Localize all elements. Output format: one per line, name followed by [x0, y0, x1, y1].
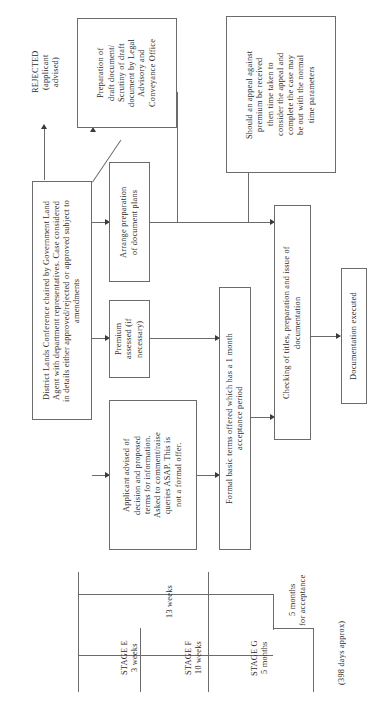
node-formal-terms-label: Formal basic terms offered which has a 1… [220, 288, 250, 549]
node-applicant-advised[interactable]: Applicant advised of decision and propos… [109, 400, 197, 550]
timeline-divider-fg [208, 572, 209, 692]
timeline-stage-g-label: STAGE G 5 months [234, 624, 286, 692]
node-rejected[interactable]: REJECTED (applicant advised) [24, 22, 68, 122]
timeline-tick-end-lower [273, 628, 313, 629]
timeline-total-label: (398 days approx) [330, 610, 354, 696]
connector-draft-doc-down [177, 92, 178, 222]
connector-draft-doc-to-checking [177, 222, 274, 223]
node-draft-doc-label: Preparation of draft document/ Scrutiny … [78, 19, 176, 127]
timeline-baseline [78, 572, 79, 692]
node-conference[interactable]: District Lands Conference chaired by Gov… [32, 181, 92, 420]
node-premium[interactable]: Premium assessed (if necessary) [109, 300, 150, 378]
timeline-tick-end-upper [273, 594, 274, 630]
connector-doc-plans-right [150, 222, 178, 223]
node-appeal-note[interactable]: Should an appeal against premium be rece… [226, 16, 336, 173]
connector-premium-to-formal-terms [150, 338, 219, 339]
timeline-tick-e-end [78, 594, 140, 595]
timeline-tick-total [313, 628, 314, 692]
timeline-total: (398 days approx) [330, 610, 354, 696]
node-checking-titles-label: Checking of titles, preparation and issu… [275, 206, 310, 439]
timeline-stage-f: STAGE F 10 weeks [168, 624, 220, 692]
timeline-stage-f-label: STAGE F 10 weeks [168, 624, 220, 692]
node-doc-plans-label: Arrange preparation of document plans [110, 163, 149, 281]
node-rejected-label: REJECTED (applicant advised) [24, 22, 68, 122]
timeline-stage-g: STAGE G 5 months [234, 624, 286, 692]
timeline-tick-g-end [208, 594, 273, 595]
flowchart-canvas: District Lands Conference chaired by Gov… [0, 0, 386, 710]
node-doc-executed-label: Documentation executed [342, 269, 366, 403]
node-appeal-note-label: Should an appeal against premium be rece… [227, 17, 335, 172]
node-formal-terms[interactable]: Formal basic terms offered which has a 1… [219, 287, 251, 550]
node-doc-plans[interactable]: Arrange preparation of document plans [109, 162, 150, 282]
timeline-span-5-months-label: 5 months for acceptance [283, 568, 313, 632]
connector-appeal-note-down [248, 173, 249, 222]
node-doc-executed[interactable]: Documentation executed [341, 268, 367, 404]
timeline-span-13-weeks-label: 13 weeks [160, 574, 180, 630]
node-checking-titles[interactable]: Checking of titles, preparation and issu… [274, 205, 311, 440]
timeline-span-5-months: 5 months for acceptance [283, 568, 313, 632]
timeline-stage-e: STAGE E 3 weeks [104, 624, 156, 692]
arrowhead-to-rejected [41, 124, 47, 129]
node-premium-label: Premium assessed (if necessary) [110, 301, 149, 377]
timeline-divider-ef [140, 628, 141, 692]
timeline-stage-e-label: STAGE E 3 weeks [104, 624, 156, 692]
node-applicant-advised-label: Applicant advised of decision and propos… [110, 401, 196, 549]
node-conference-label: District Lands Conference chaired by Gov… [33, 182, 91, 419]
timeline-span-13-weeks: 13 weeks [160, 574, 180, 630]
connector-conference-to-rejected [44, 128, 45, 180]
node-draft-doc[interactable]: Preparation of draft document/ Scrutiny … [77, 18, 177, 128]
